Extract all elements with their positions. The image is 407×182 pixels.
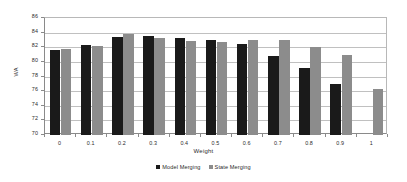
bar-model-merging-0.6 bbox=[237, 44, 248, 135]
x-tick-mark bbox=[75, 134, 76, 137]
bar-state-merging-1 bbox=[373, 89, 384, 135]
x-tick-mark bbox=[293, 134, 294, 137]
bar-state-merging-0.6 bbox=[248, 40, 259, 135]
bar-model-merging-0.2 bbox=[112, 37, 123, 135]
bar-model-merging-0.5 bbox=[206, 40, 217, 135]
x-tick-label: 0.4 bbox=[180, 140, 188, 146]
legend-entry-state-merging: State Merging bbox=[209, 164, 251, 170]
bar-chart-figure: 868482807876747270 WA 00.10.20.30.40.50.… bbox=[0, 0, 407, 182]
x-tick-mark bbox=[106, 134, 107, 137]
x-tick-label: 0.5 bbox=[212, 140, 220, 146]
y-tick-label: 80 bbox=[32, 58, 38, 63]
bar-state-merging-0.7 bbox=[279, 40, 290, 135]
bar-model-merging-0.9 bbox=[330, 84, 341, 135]
y-tick-label: 78 bbox=[32, 73, 38, 78]
x-tick-mark bbox=[231, 134, 232, 137]
x-tick-mark bbox=[44, 134, 45, 137]
bar-model-merging-0 bbox=[50, 50, 61, 135]
legend-swatch-icon bbox=[209, 165, 213, 169]
x-tick-label: 0.7 bbox=[274, 140, 282, 146]
x-tick-mark bbox=[200, 134, 201, 137]
bar-state-merging-0.9 bbox=[342, 55, 353, 135]
x-tick-label: 0.2 bbox=[118, 140, 126, 146]
x-tick-label: 0.3 bbox=[149, 140, 157, 146]
x-axis-title: Weight bbox=[0, 148, 407, 154]
bar-state-merging-0.1 bbox=[92, 46, 103, 135]
bar-state-merging-0 bbox=[61, 49, 72, 135]
legend-label: State Merging bbox=[215, 164, 251, 170]
x-tick-mark bbox=[356, 134, 357, 137]
x-tick-label: 0.9 bbox=[336, 140, 344, 146]
bar-model-merging-0.3 bbox=[143, 36, 154, 135]
x-tick-mark bbox=[325, 134, 326, 137]
x-tick-label: 0.8 bbox=[305, 140, 313, 146]
legend-entry-model-merging: Model Merging bbox=[156, 164, 200, 170]
x-tick-mark bbox=[262, 134, 263, 137]
plot-area bbox=[44, 17, 387, 134]
x-tick-label: 0.1 bbox=[87, 140, 95, 146]
y-tick-label: 74 bbox=[32, 102, 38, 107]
bar-model-merging-0.8 bbox=[299, 68, 310, 135]
x-tick-label: 0.6 bbox=[243, 140, 251, 146]
x-tick-mark bbox=[169, 134, 170, 137]
bar-model-merging-0.1 bbox=[81, 45, 92, 135]
bar-model-merging-0.7 bbox=[268, 56, 279, 135]
bar-state-merging-0.8 bbox=[310, 47, 321, 135]
legend-label: Model Merging bbox=[162, 164, 200, 170]
y-tick-label: 70 bbox=[32, 131, 38, 136]
bar-state-merging-0.4 bbox=[186, 41, 197, 135]
y-tick-label: 76 bbox=[32, 87, 38, 92]
y-axis-title: WA bbox=[13, 67, 19, 76]
x-tick-label: 1 bbox=[370, 140, 373, 146]
y-tick-label: 82 bbox=[32, 44, 38, 49]
y-tick-label: 84 bbox=[32, 29, 38, 34]
bar-state-merging-0.5 bbox=[217, 42, 228, 135]
chart-legend: Model MergingState Merging bbox=[0, 164, 407, 170]
gridline bbox=[45, 33, 386, 34]
legend-swatch-icon bbox=[156, 165, 160, 169]
x-tick-mark bbox=[387, 134, 388, 137]
x-tick-label: 0 bbox=[58, 140, 61, 146]
x-tick-mark bbox=[138, 134, 139, 137]
y-tick-label: 86 bbox=[32, 14, 38, 19]
bar-state-merging-0.3 bbox=[154, 38, 165, 135]
bar-model-merging-0.4 bbox=[175, 38, 186, 135]
y-tick-label: 72 bbox=[32, 117, 38, 122]
bar-state-merging-0.2 bbox=[123, 34, 134, 135]
y-axis: 868482807876747270 bbox=[0, 0, 44, 182]
